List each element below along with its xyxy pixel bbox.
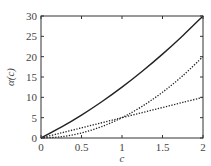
x-tick-label: 0.5 <box>75 141 89 153</box>
series-line-dotted-quadratic <box>41 57 203 138</box>
y-axis-label: α(c) <box>4 68 17 86</box>
y-tick-label: 10 <box>26 91 38 103</box>
x-tick-label: 0 <box>38 141 44 153</box>
y-tick-label: 30 <box>26 10 38 22</box>
y-tick-label: 0 <box>32 132 38 144</box>
plot-frame <box>41 16 203 138</box>
axis-ticks <box>41 16 203 138</box>
chart: 00.511.52 051015202530 c α(c) <box>0 0 211 166</box>
x-tick-label: 2 <box>200 141 206 153</box>
x-tick-label: 1.5 <box>156 141 170 153</box>
y-tick-labels: 051015202530 <box>26 10 38 144</box>
y-tick-label: 15 <box>26 71 38 83</box>
plot-lines <box>41 16 203 138</box>
y-tick-label: 25 <box>26 30 38 42</box>
x-axis-label: c <box>120 152 125 164</box>
y-tick-label: 20 <box>26 51 38 63</box>
y-tick-label: 5 <box>32 112 38 124</box>
series-line-solid <box>41 16 203 138</box>
